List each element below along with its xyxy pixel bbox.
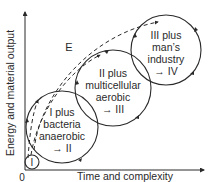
arrow-icon [25, 118, 29, 123]
stage-ii-line-3: anaerobic [39, 130, 85, 142]
dashed-curve-inner [28, 100, 38, 158]
curve-label-e: E [65, 41, 72, 53]
x-axis-label: Time and complexity [77, 170, 174, 182]
stage-text-iii: II plus multicellular aerobic → III [85, 67, 141, 115]
stage-iv-line-4: → IV [154, 65, 177, 77]
stage-ii-line-1: I plus [49, 106, 74, 118]
stage-label-i: I [31, 157, 34, 168]
stage-ii-line-4: → II [52, 142, 71, 154]
origin-label: 0 [19, 172, 25, 182]
stage-iv-line-2: man’s [152, 41, 180, 53]
energy-complexity-diagram: Energy and material output Time and comp… [0, 0, 209, 182]
stage-iii-line-2: multicellular [85, 79, 141, 91]
stage-iii-line-1: II plus [99, 67, 127, 79]
stage-ii-line-2: bacteria [43, 118, 81, 130]
y-axis-label: Energy and material output [4, 30, 16, 156]
stage-iii-line-3: aerobic [96, 91, 130, 103]
stage-iv-line-1: III plus [151, 29, 182, 41]
stage-iv-line-3: industry [148, 53, 186, 65]
stage-text-ii: I plus bacteria anaerobic → II [39, 106, 85, 154]
stage-text-iv: III plus man’s industry → IV [148, 29, 186, 77]
stage-iii-line-4: → III [102, 103, 124, 115]
